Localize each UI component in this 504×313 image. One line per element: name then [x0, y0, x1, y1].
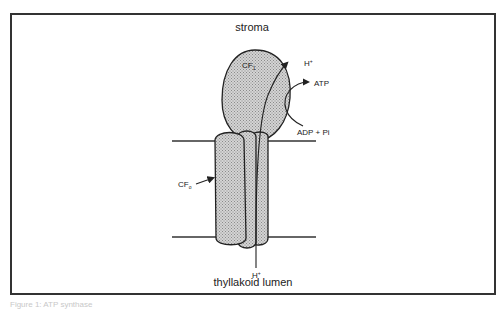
proton-top-label: H+: [304, 58, 313, 68]
atp-label: ATP: [314, 79, 329, 88]
lumen-label: thyllakoid lumen: [214, 276, 293, 288]
cf1-head: [222, 50, 290, 142]
adp-pi-label: ADP + Pi: [297, 128, 330, 137]
cf0-label: CFo: [178, 180, 192, 190]
figure-caption: Figure 1: ATP synthase: [10, 300, 92, 309]
stroma-label: stroma: [235, 21, 270, 33]
atp-synthase-diagram: stroma CF1 CFo H+ ATP ADP + Pi H+ thylla…: [0, 0, 504, 313]
cf0-pointer-arrow: [196, 178, 213, 184]
cf0-left-subunit: [215, 133, 246, 245]
